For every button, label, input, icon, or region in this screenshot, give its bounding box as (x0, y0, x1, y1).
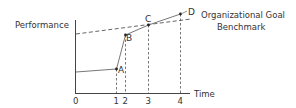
x-tick-2: 2 (123, 96, 128, 106)
y-axis-title: Performance (15, 20, 69, 30)
label-point-d: D (188, 7, 195, 17)
point-c (147, 24, 150, 27)
label-point-c: C (145, 14, 151, 24)
x-tick-4: 4 (178, 96, 183, 106)
performance-chart: A B C D Performance Time Organizational … (0, 0, 296, 108)
x-tick-1: 1 (114, 96, 119, 106)
x-tick-3: 3 (146, 96, 151, 106)
benchmark-label-line2: Benchmark (217, 22, 265, 32)
benchmark-label-line1: Organizational Goal (201, 10, 285, 20)
performance-line (76, 14, 181, 72)
x-axis-title: Time (193, 89, 215, 99)
label-d-connector (181, 11, 187, 14)
label-point-a: A (118, 65, 125, 75)
x-tick-0: 0 (73, 96, 78, 106)
label-point-b: B (126, 33, 132, 43)
